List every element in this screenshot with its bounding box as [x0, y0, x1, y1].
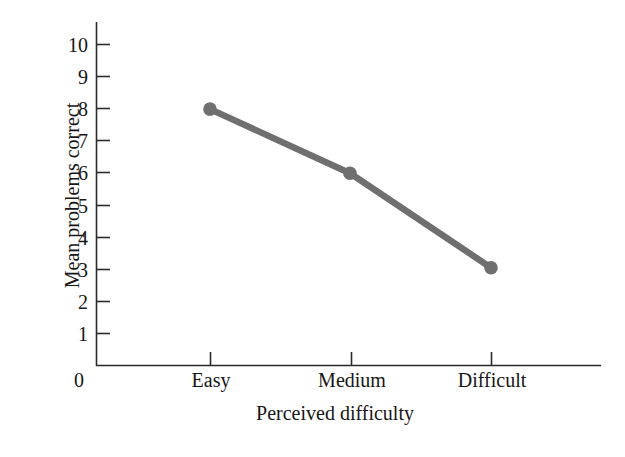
- data-point-easy: [203, 102, 217, 116]
- x-tick-label-easy: Easy: [141, 370, 281, 390]
- data-series-mean-problems-correct: [203, 102, 498, 274]
- x-axis-ticks: [211, 352, 492, 366]
- y-axis-ticks: [96, 45, 110, 334]
- x-axis-title: Perceived difficulty: [215, 402, 455, 425]
- series-line: [210, 109, 491, 268]
- y-axis-title: Mean problems correct: [61, 76, 84, 316]
- origin-label-zero: 0: [64, 370, 94, 390]
- x-tick-label-medium: Medium: [282, 370, 422, 390]
- x-tick-label-difficult: Difficult: [422, 370, 562, 390]
- data-point-difficult: [484, 261, 498, 275]
- line-chart-figure: 10 9 8 7 6 5 4 3 2 1 0 Easy Medium Diffi…: [0, 0, 625, 457]
- data-point-medium: [343, 166, 357, 180]
- y-tick-label-10: 10: [48, 35, 88, 55]
- y-tick-label-1: 1: [48, 324, 88, 344]
